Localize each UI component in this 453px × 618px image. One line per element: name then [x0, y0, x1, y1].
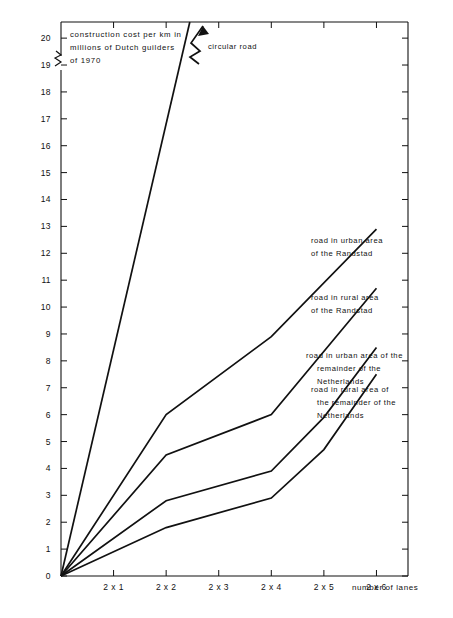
anno-rural-remainder-line-2: the remainder of the	[317, 398, 396, 407]
title-line-2: millions of Dutch guilders	[70, 43, 175, 52]
anno-rural-remainder-line-3: Netherlands	[317, 411, 364, 420]
y-tick-label: 0	[46, 571, 51, 581]
y-tick-label: 10	[41, 302, 51, 312]
y-axis-break-symbol	[55, 51, 61, 66]
series-line	[61, 22, 190, 576]
x-axis-caption: number of lanes	[352, 583, 418, 592]
y-tick-label: 16	[41, 141, 51, 151]
y-tick-label: 3	[46, 490, 51, 500]
y-tick-label: 12	[41, 248, 51, 258]
y-axis: 01234567891011121314151617181920	[41, 33, 67, 581]
right-axis-ticks	[402, 38, 408, 576]
y-tick-label: 1	[46, 544, 51, 554]
anno-urban-remainder-line-1: road in urban area of the	[306, 351, 403, 360]
anno-urban-randstad-line-2: of the Randstad	[311, 249, 373, 258]
anno-urban-randstad-line-1: road in urban area	[311, 236, 383, 245]
y-tick-label: 6	[46, 410, 51, 420]
x-tick-label: 2 x 1	[103, 582, 123, 592]
y-tick-label: 15	[41, 168, 51, 178]
y-tick-label: 13	[41, 221, 51, 231]
y-tick-label: 11	[41, 275, 51, 285]
y-tick-label: 14	[41, 194, 51, 204]
top-axis-ticks	[114, 22, 377, 28]
x-tick-label: 2 x 4	[261, 582, 281, 592]
chart-container: 01234567891011121314151617181920 2 x 12 …	[0, 0, 453, 618]
x-tick-label: 2 x 2	[156, 582, 176, 592]
y-tick-label: 8	[46, 356, 51, 366]
y-tick-label: 17	[41, 114, 51, 124]
y-tick-label: 4	[46, 463, 51, 473]
y-tick-label: 18	[41, 87, 51, 97]
x-tick-label: 2 x 3	[209, 582, 229, 592]
x-tick-label: 2 x 5	[314, 582, 334, 592]
series-line	[61, 288, 376, 576]
y-tick-label: 9	[46, 329, 51, 339]
y-tick-label: 20	[41, 33, 51, 43]
title-line-3: of 1970	[70, 56, 101, 65]
anno-circular-road: circular road	[208, 42, 257, 51]
anno-rural-randstad-line-2: of the Randstad	[311, 306, 373, 315]
x-axis: 2 x 12 x 22 x 32 x 42 x 52 x 6	[103, 570, 386, 592]
y-tick-label: 19	[41, 60, 51, 70]
chart-title: construction cost per km in millions of …	[70, 30, 182, 65]
circular-road-break-and-arrow	[190, 26, 209, 64]
y-tick-label: 7	[46, 383, 51, 393]
y-tick-label: 2	[46, 517, 51, 527]
line-chart: 01234567891011121314151617181920 2 x 12 …	[0, 0, 453, 618]
title-line-1: construction cost per km in	[70, 30, 182, 39]
anno-urban-remainder-line-2: remainder of the	[317, 364, 381, 373]
anno-rural-remainder-line-1: road in rural area of	[311, 385, 389, 394]
y-tick-label: 5	[46, 437, 51, 447]
anno-rural-randstad-line-1: road in rural area	[311, 293, 379, 302]
